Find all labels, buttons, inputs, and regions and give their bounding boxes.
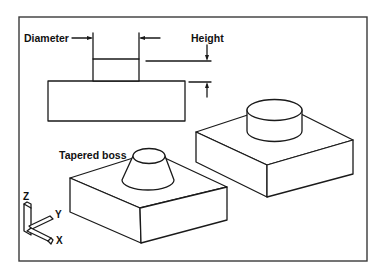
- boss-feature-diagram: Diameter Height: [0, 0, 387, 276]
- height-label: Height: [191, 32, 224, 44]
- diagram-canvas: Diameter Height: [0, 0, 387, 276]
- tapered-boss-label: Tapered boss: [59, 149, 127, 161]
- side-view-boss: [93, 59, 139, 81]
- axis-z-label: Z: [23, 191, 29, 202]
- diameter-label: Diameter: [24, 32, 69, 44]
- axis-y-label: Y: [55, 209, 62, 220]
- side-view-base: [48, 81, 185, 121]
- axis-x-label: X: [56, 235, 63, 246]
